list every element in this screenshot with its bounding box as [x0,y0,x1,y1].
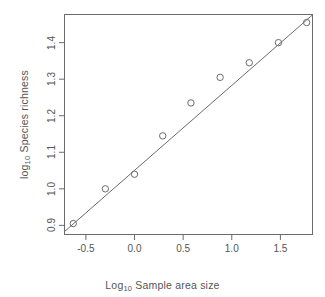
x-axis-title-suffix: Sample area size [132,279,219,291]
data-point-6 [246,60,252,66]
x-tick-label-2: 0.5 [176,243,190,254]
x-axis-title-prefix: Log [105,279,123,291]
y-axis-title-suffix: Species richness [18,70,30,156]
y-axis-title-prefix: log [18,164,30,179]
x-tick-label-1: 0.0 [128,243,142,254]
data-point-1 [102,186,108,192]
x-tick-label-4: 1.5 [273,243,287,254]
x-tick-label-3: 1.0 [225,243,239,254]
x-axis-title-subscript: 10 [123,284,132,293]
y-tick-label-3: 1.2 [45,109,56,123]
x-axis-tick-marks [86,235,281,241]
y-tick-label-4: 1.3 [45,72,56,86]
data-point-4 [188,100,194,106]
y-axis-title: log10 Species richness [16,14,32,235]
y-tick-label-2: 1.1 [45,145,56,159]
data-point-3 [160,133,166,139]
data-point-2 [131,171,137,177]
regression-line [65,15,313,232]
y-tick-label-5: 1.4 [45,36,56,50]
y-axis-tick-marks [59,43,65,226]
x-axis-title: Log10 Sample area size [0,279,325,291]
x-tick-label-0: -0.5 [77,243,94,254]
y-axis-title-subscript: 10 [23,156,32,165]
y-tick-label-1: 1.0 [45,182,56,196]
y-tick-label-0: 0.9 [45,218,56,232]
data-point-5 [217,74,223,80]
regression-line-path [65,15,313,232]
scatter-plot-figure: -0.50.00.51.01.5 0.91.01.11.21.31.4 Log1… [0,0,325,297]
